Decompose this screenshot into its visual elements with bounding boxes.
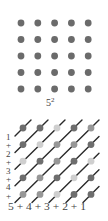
dot xyxy=(18,53,25,60)
dot-medium xyxy=(37,191,44,198)
dot xyxy=(18,86,25,93)
dot xyxy=(34,20,41,27)
dot xyxy=(18,36,25,43)
dot xyxy=(51,20,58,27)
dot xyxy=(34,36,41,43)
dot xyxy=(68,53,75,60)
dot-medium xyxy=(54,141,61,148)
dot-dark xyxy=(20,125,27,132)
dot-dark xyxy=(88,191,95,198)
dot xyxy=(85,86,92,93)
dot-medium xyxy=(71,141,78,148)
dot-dark xyxy=(20,141,27,148)
dot xyxy=(51,86,58,93)
dot-light xyxy=(71,174,78,181)
dot xyxy=(85,36,92,43)
dot-dark xyxy=(71,191,78,198)
dot xyxy=(85,20,92,27)
dot xyxy=(18,20,25,27)
dot-dark xyxy=(20,174,27,181)
dot xyxy=(34,69,41,76)
dot-dark xyxy=(71,125,78,132)
dot-medium xyxy=(54,158,61,165)
diagonal-line xyxy=(66,170,99,203)
dot-dark xyxy=(71,158,78,165)
dot-dark xyxy=(88,141,95,148)
dot-dark xyxy=(37,158,44,165)
dot-dark xyxy=(54,174,61,181)
dot-dark xyxy=(88,174,95,181)
top-dot-grid-5-squared xyxy=(18,20,92,93)
label-exponent: 2 xyxy=(51,96,55,104)
dot-medium xyxy=(88,125,95,132)
dot xyxy=(18,69,25,76)
dot xyxy=(85,69,92,76)
dot xyxy=(34,86,41,93)
left-label: + xyxy=(6,191,11,201)
dot xyxy=(68,86,75,93)
top-grid-label: 52 xyxy=(46,96,55,108)
dot-light xyxy=(54,125,61,132)
diagonal-line xyxy=(15,120,48,153)
dot-medium xyxy=(20,191,27,198)
dot-light xyxy=(54,191,61,198)
dot-light xyxy=(37,141,44,148)
sum-of-squares-figure: 52 1+2+3+4+ 5 + 4 + 3 + 2 + 1 xyxy=(0,0,108,221)
bottom-sum-label: 5 + 4 + 3 + 2 + 1 xyxy=(8,201,86,212)
dot xyxy=(68,20,75,27)
dot-dark xyxy=(37,125,44,132)
dot-medium xyxy=(37,174,44,181)
dot xyxy=(85,53,92,60)
left-sum-labels: 1+2+3+4+ xyxy=(6,132,11,201)
dot-light xyxy=(20,158,27,165)
dot xyxy=(68,69,75,76)
dot xyxy=(51,53,58,60)
dot xyxy=(34,53,41,60)
dot-light xyxy=(88,158,95,165)
dot xyxy=(51,36,58,43)
dot xyxy=(51,69,58,76)
dot xyxy=(68,36,75,43)
